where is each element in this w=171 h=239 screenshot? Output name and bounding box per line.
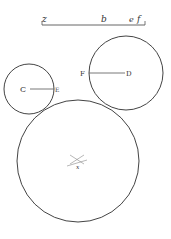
circle-d: F D: [80, 36, 163, 110]
label-b: b: [101, 14, 107, 24]
circle-large: x: [17, 100, 139, 222]
label-f-point: F: [80, 70, 85, 78]
label-f: f: [136, 14, 142, 24]
label-c: C: [20, 85, 26, 94]
label-e: e: [129, 15, 134, 24]
label-x: x: [76, 163, 80, 170]
tangent-circles-diagram: z b e f C E F D x: [0, 0, 171, 239]
label-d: D: [126, 70, 132, 78]
label-e-point: E: [55, 86, 59, 93]
scale-line: z b e f: [41, 14, 145, 25]
label-z: z: [41, 14, 47, 24]
